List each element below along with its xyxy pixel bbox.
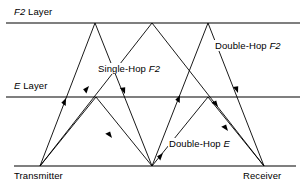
arrowhead-single-hop-f2-up: [82, 84, 91, 93]
e-layer-label-rest: Layer: [20, 80, 47, 91]
arrowhead-double-hop-f2-leg1: [61, 97, 69, 106]
propagation-paths-svg: [0, 0, 306, 189]
single-hop-f2-label-italic: F2: [149, 63, 160, 74]
double-hop-e-label-italic: E: [223, 138, 229, 149]
f2-layer-label-italic: F2: [14, 6, 25, 17]
propagation-diagram: F2 Layer E Layer Single-Hop F2 Double-Ho…: [0, 0, 306, 189]
f2-layer-label-rest: Layer: [25, 6, 52, 17]
single-hop-f2-label-rest: Single-Hop: [98, 63, 149, 74]
double-hop-f2-label-rest: Double-Hop: [215, 40, 269, 51]
direction-arrowheads: [61, 84, 241, 160]
f2-layer-label: F2 Layer: [14, 6, 52, 17]
arrowhead-double-hop-f2-leg3: [175, 94, 183, 103]
double-hop-f2-label: Double-Hop F2: [214, 40, 282, 51]
double-hop-e-label-rest: Double-Hop: [169, 138, 223, 149]
double-hop-f2-label-italic: F2: [269, 40, 280, 51]
path-double-hop-e: [40, 97, 264, 166]
arrowhead-double-hop-e-leg1: [105, 131, 114, 140]
double-hop-e-label: Double-Hop E: [168, 138, 231, 149]
single-hop-f2-label: Single-Hop F2: [97, 63, 161, 74]
transmitter-label: Transmitter: [14, 170, 63, 181]
e-layer-label: E Layer: [14, 80, 47, 91]
receiver-label: Receiver: [243, 170, 281, 181]
arrowhead-double-hop-e-leg3: [221, 124, 230, 133]
